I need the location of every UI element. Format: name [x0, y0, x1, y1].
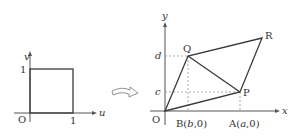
- curved-hollow-arrow-icon: [112, 87, 138, 97]
- uv-plane: v u O 1 1: [14, 51, 105, 126]
- tick-d-label: d: [155, 50, 161, 61]
- tick-v-1-label: 1: [20, 64, 26, 75]
- xy-plane: y x O Q R P d c B(b,0) A(a,0): [150, 10, 288, 129]
- point-a-label: A(a,0): [228, 118, 260, 129]
- point-b-label: B(b,0): [176, 118, 207, 129]
- x-axis-arrow-icon: [275, 109, 280, 113]
- origin-label-right: O: [152, 114, 160, 125]
- u-axis-label: u: [99, 107, 105, 118]
- tick-c-label: c: [155, 86, 161, 97]
- parallelogram-OPRQ: [165, 38, 262, 111]
- y-axis-arrow-icon: [163, 22, 167, 27]
- origin-label-left: O: [18, 114, 26, 125]
- point-p-label: P: [243, 87, 250, 98]
- point-q-label: Q: [183, 43, 191, 54]
- v-axis-label: v: [24, 51, 30, 62]
- tick-u-1-label: 1: [70, 115, 76, 126]
- y-axis-label: y: [161, 10, 168, 21]
- x-axis-label: x: [282, 105, 288, 116]
- point-r-label: R: [265, 30, 273, 41]
- u-axis-arrow-icon: [92, 111, 97, 115]
- unit-square: [30, 69, 73, 113]
- diagonal-QP: [188, 56, 240, 92]
- transformation-diagram: v u O 1 1 y x O Q R P d c B(b,0) A(: [0, 0, 296, 137]
